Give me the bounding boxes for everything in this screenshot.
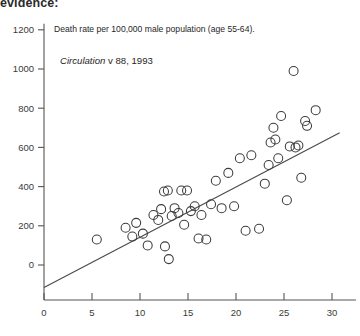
scatter-point xyxy=(303,121,312,130)
scatter-point xyxy=(289,66,298,75)
scatter-point xyxy=(264,161,273,170)
x-axis-tick-label: 30 xyxy=(327,307,338,318)
y-axis-tick-label: 400 xyxy=(18,181,34,192)
scatter-point xyxy=(128,232,137,241)
scatter-point xyxy=(260,179,269,188)
scatter-point xyxy=(164,255,173,264)
plot-area: 020040060080010001200051015202530 xyxy=(0,0,360,336)
x-axis-tick-label: 10 xyxy=(135,307,146,318)
scatter-point xyxy=(297,173,306,182)
x-axis-tick-label: 15 xyxy=(183,307,194,318)
scatter-point xyxy=(301,116,310,125)
x-axis-tick-label: 25 xyxy=(279,307,290,318)
scatter-chart-figure: evidence: Death rate per 100,000 male po… xyxy=(0,0,360,336)
scatter-point xyxy=(149,211,158,220)
scatter-point xyxy=(143,241,152,250)
x-axis-tick-label: 20 xyxy=(231,307,242,318)
y-axis-tick-label: 600 xyxy=(18,142,34,153)
scatter-point xyxy=(294,141,303,150)
scatter-point xyxy=(311,106,320,115)
scatter-point xyxy=(230,202,239,211)
scatter-point xyxy=(282,196,291,205)
scatter-point xyxy=(217,204,226,213)
scatter-point xyxy=(157,205,166,214)
scatter-point xyxy=(207,200,216,209)
scatter-point xyxy=(235,154,244,163)
x-axis-tick-label: 5 xyxy=(89,307,94,318)
scatter-point xyxy=(132,218,141,227)
scatter-point xyxy=(241,226,250,235)
y-axis-tick-label: 800 xyxy=(18,103,34,114)
scatter-point xyxy=(197,211,206,220)
y-axis-tick-label: 1000 xyxy=(13,63,34,74)
scatter-point xyxy=(92,235,101,244)
y-axis-tick-label: 200 xyxy=(18,220,34,231)
scatter-point xyxy=(255,224,264,233)
scatter-point xyxy=(247,151,256,160)
scatter-point xyxy=(224,168,233,177)
scatter-point xyxy=(160,242,169,251)
scatter-point xyxy=(277,112,286,121)
y-axis-tick-label: 1200 xyxy=(13,24,34,35)
scatter-point xyxy=(291,143,300,152)
scatter-point xyxy=(154,215,163,224)
scatter-point xyxy=(274,154,283,163)
scatter-point xyxy=(211,176,220,185)
scatter-point xyxy=(180,220,189,229)
scatter-point xyxy=(121,223,130,232)
x-axis-tick-label: 0 xyxy=(41,307,46,318)
scatter-point xyxy=(269,123,278,132)
y-axis-tick-label: 0 xyxy=(29,259,34,270)
scatter-point xyxy=(183,186,192,195)
